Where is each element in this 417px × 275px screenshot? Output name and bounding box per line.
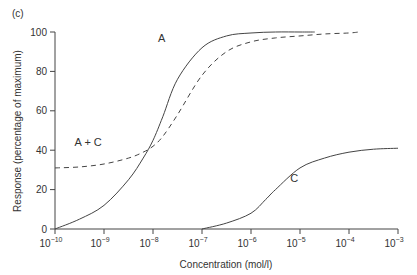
y-tick-label: 60 — [36, 105, 48, 116]
curve-labels: AA + CC — [75, 32, 299, 184]
x-tick-label: 10−8 — [139, 236, 158, 249]
y-axis-title: Response (percentage of maximum) — [12, 50, 23, 212]
curve-label: A — [158, 32, 166, 44]
x-tick-label: 10−5 — [286, 236, 305, 249]
y-tick-label: 100 — [30, 27, 47, 38]
curve-label: A + C — [75, 136, 102, 148]
y-tick-label: 20 — [36, 184, 48, 195]
x-tick-label: 10−9 — [90, 236, 109, 249]
y-tick-label: 0 — [41, 224, 47, 235]
x-tick-label: 10−4 — [335, 236, 354, 249]
x-axis: 10−1010−910−810−710−610−510−410−3 — [40, 229, 404, 249]
x-tick-label: 10−10 — [40, 236, 63, 249]
y-axis: 020406080100 — [30, 27, 55, 235]
curve-label: C — [290, 172, 298, 184]
dose-response-chart: (c) 020406080100 10−1010−910−810−710−610… — [0, 0, 417, 275]
curve-c — [202, 148, 398, 229]
y-tick-label: 40 — [36, 145, 48, 156]
x-tick-label: 10−3 — [384, 236, 403, 249]
y-tick-label: 80 — [36, 66, 48, 77]
curves — [55, 32, 398, 229]
x-tick-label: 10−7 — [188, 236, 207, 249]
curve-a — [55, 32, 315, 229]
x-tick-label: 10−6 — [237, 236, 256, 249]
x-axis-title: Concentration (mol/l) — [180, 259, 273, 270]
panel-label: (c) — [12, 8, 24, 19]
